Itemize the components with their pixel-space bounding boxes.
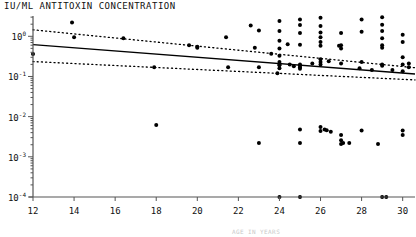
data-point [298, 67, 302, 71]
data-point [72, 35, 76, 39]
data-point [253, 46, 257, 50]
data-point [257, 65, 261, 69]
data-point [339, 31, 343, 35]
x-tick-label: 14 [60, 206, 88, 216]
x-tick-label: 16 [101, 206, 129, 216]
data-point [390, 68, 394, 72]
x-tick-label: 18 [142, 206, 170, 216]
x-tick-label: 26 [307, 206, 335, 216]
data-point [319, 40, 323, 44]
data-point [319, 62, 323, 66]
data-point [360, 60, 364, 64]
x-tick-label: 12 [19, 206, 47, 216]
x-tick-label: 22 [224, 206, 252, 216]
data-point [275, 71, 279, 75]
y-tick-label: 10-4 [8, 191, 26, 203]
data-point [339, 133, 343, 137]
data-point [277, 54, 281, 58]
data-point [376, 142, 380, 146]
y-tick-label: 10-3 [8, 151, 26, 163]
data-point [370, 68, 374, 72]
data-point [298, 127, 302, 131]
data-point [407, 65, 411, 69]
data-point [319, 30, 323, 34]
figure-footnote: AGE IN YEARS [232, 228, 280, 235]
data-point [195, 45, 199, 49]
data-point [319, 16, 323, 20]
data-point [358, 66, 362, 70]
data-point [152, 65, 156, 69]
regression-fit-line [33, 45, 415, 74]
data-point [407, 62, 411, 66]
data-point [226, 65, 230, 69]
data-point [286, 42, 290, 46]
y-tick-label: 10-2 [8, 111, 26, 123]
data-point [310, 62, 314, 66]
data-point [277, 19, 281, 23]
data-point [360, 129, 364, 133]
data-point [325, 128, 329, 132]
y-tick-label: 10-1 [8, 70, 26, 82]
data-point [401, 33, 405, 37]
data-point [319, 24, 323, 28]
data-point [319, 125, 323, 129]
data-point [277, 29, 281, 33]
scatter-plot-canvas [0, 0, 416, 237]
data-point [380, 23, 384, 27]
figure-root: IU/ML ANTITOXIN CONCENTRATION 10010-110-… [0, 0, 416, 237]
data-point [277, 66, 281, 70]
x-tick-label: 30 [389, 206, 416, 216]
data-point [154, 123, 158, 127]
data-point [269, 52, 273, 56]
data-point [298, 141, 302, 145]
confidence-lower-line [33, 62, 415, 80]
data-point [288, 62, 292, 66]
x-tick-label: 20 [183, 206, 211, 216]
data-point [339, 46, 343, 50]
data-point [298, 18, 302, 22]
data-point [121, 36, 125, 40]
data-point [257, 28, 261, 32]
data-point [319, 35, 323, 39]
data-point [292, 64, 296, 68]
data-point [380, 64, 384, 68]
data-point [401, 133, 405, 137]
data-point [360, 18, 364, 22]
x-tick-label: 28 [348, 206, 376, 216]
data-point [380, 46, 384, 50]
data-point [298, 43, 302, 47]
data-point [329, 130, 333, 134]
x-tick-label: 24 [265, 206, 293, 216]
data-point [380, 15, 384, 19]
data-point [401, 55, 405, 59]
data-point [277, 39, 281, 43]
data-point [380, 36, 384, 40]
data-point [298, 23, 302, 27]
data-point [401, 62, 405, 66]
data-point [70, 21, 74, 25]
data-point [224, 35, 228, 39]
data-point [401, 69, 405, 73]
data-point [277, 46, 281, 50]
data-point [401, 129, 405, 133]
axes-group [28, 16, 415, 201]
data-points-group [31, 15, 411, 199]
data-point [339, 62, 343, 66]
data-point [257, 141, 261, 145]
data-point [341, 141, 345, 145]
data-point [380, 29, 384, 33]
data-point [249, 24, 253, 28]
data-point [298, 31, 302, 35]
data-point [187, 43, 191, 47]
data-point [327, 59, 331, 63]
data-point [347, 141, 351, 145]
data-point [360, 30, 364, 34]
data-point [319, 44, 323, 48]
data-point [401, 40, 405, 44]
data-point [319, 129, 323, 133]
y-tick-label: 100 [12, 30, 26, 42]
